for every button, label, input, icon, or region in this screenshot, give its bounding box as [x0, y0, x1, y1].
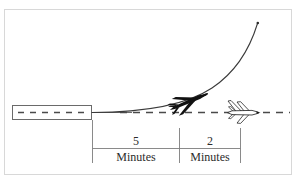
departure-separation-diagram: 5 Minutes 2 Minutes [0, 0, 301, 183]
segment-2-value: 2 [207, 134, 213, 148]
trajectory-endpoint-dot [257, 22, 260, 25]
segment-1-unit: Minutes [116, 150, 156, 164]
figure-container: 5 Minutes 2 Minutes [0, 0, 301, 183]
segment-1-value: 5 [133, 134, 139, 148]
segment-2-unit: Minutes [190, 150, 230, 164]
